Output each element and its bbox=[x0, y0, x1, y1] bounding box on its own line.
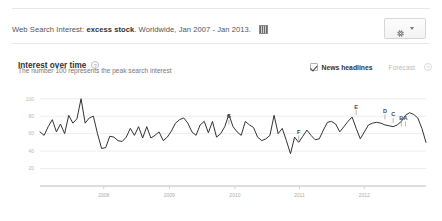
news-marker-label: G bbox=[227, 113, 231, 119]
chevron-down-icon bbox=[410, 27, 414, 30]
news-marker-label: E bbox=[354, 104, 358, 110]
news-headlines-checkbox[interactable] bbox=[310, 63, 318, 71]
y-axis-tick-label: 100 bbox=[26, 96, 35, 102]
x-axis-tick-label: 2010 bbox=[229, 192, 240, 198]
news-marker-a[interactable]: A bbox=[403, 115, 407, 127]
x-axis-tick-label: 2012 bbox=[359, 192, 370, 198]
header-bar: Web Search Interest: excess stock. World… bbox=[12, 14, 430, 42]
interest-over-time-chart[interactable]: 1008060402020082009201020112012GFEDCBA bbox=[12, 82, 432, 210]
news-marker-label: D bbox=[383, 108, 387, 114]
series-line-excess-stock[interactable] bbox=[40, 99, 426, 154]
y-axis-tick-label: 20 bbox=[28, 165, 34, 171]
x-axis-tick-label: 2009 bbox=[164, 192, 175, 198]
forecast-help-icon[interactable]: ? bbox=[424, 63, 432, 71]
x-axis-tick-label: 2011 bbox=[294, 192, 305, 198]
header-query: excess stock bbox=[86, 25, 134, 34]
x-axis-tick-label: 2008 bbox=[98, 192, 109, 198]
news-marker-label: A bbox=[403, 115, 407, 121]
header-scope: . Worldwide, Jan 2007 - Jan 2013. bbox=[134, 25, 251, 34]
header-divider bbox=[12, 43, 430, 44]
news-marker-d[interactable]: D bbox=[383, 108, 387, 120]
embed-code-icon[interactable] bbox=[259, 25, 268, 34]
forecast-toggle[interactable]: Forecast ? bbox=[389, 63, 432, 71]
news-marker-c[interactable]: C bbox=[391, 111, 395, 123]
gear-icon bbox=[396, 24, 405, 33]
page-title: Web Search Interest: excess stock. World… bbox=[12, 23, 268, 34]
news-headlines-label: News headlines bbox=[322, 64, 373, 71]
chart-svg: 1008060402020082009201020112012GFEDCBA bbox=[12, 82, 432, 210]
settings-button[interactable] bbox=[384, 18, 426, 39]
news-marker-label: F bbox=[297, 129, 301, 135]
header-prefix: Web Search Interest: bbox=[12, 25, 84, 34]
news-marker-e[interactable]: E bbox=[354, 104, 358, 116]
section-subtitle: The number 100 represents the peak searc… bbox=[18, 67, 172, 74]
top-divider bbox=[12, 8, 430, 9]
news-marker-label: C bbox=[391, 111, 395, 117]
y-axis-tick-label: 60 bbox=[28, 130, 34, 136]
news-marker-f[interactable]: F bbox=[297, 129, 301, 141]
chart-controls: News headlines Forecast ? bbox=[310, 63, 432, 71]
forecast-label: Forecast bbox=[389, 64, 415, 71]
trends-page: Web Search Interest: excess stock. World… bbox=[0, 0, 442, 221]
news-headlines-toggle[interactable]: News headlines bbox=[310, 63, 373, 71]
y-axis-tick-label: 80 bbox=[28, 113, 34, 119]
news-marker-g[interactable]: G bbox=[227, 113, 231, 125]
y-axis-tick-label: 40 bbox=[28, 148, 34, 154]
